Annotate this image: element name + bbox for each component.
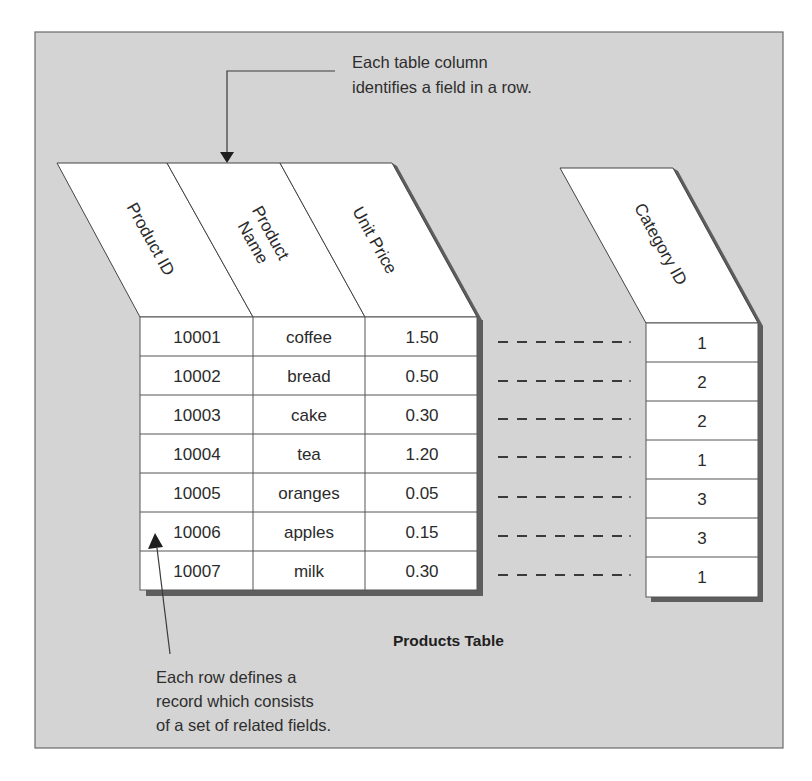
cell-category-id: 1	[697, 451, 706, 470]
cell-product-id: 10002	[173, 367, 220, 386]
cell-category-id: 1	[697, 334, 706, 353]
cell-unit-price: 0.05	[405, 484, 438, 503]
products-table-diagram: Each table column identifies a field in …	[0, 0, 812, 781]
cell-product-id: 10004	[173, 445, 220, 464]
column-note-line-2: identifies a field in a row.	[352, 78, 532, 96]
column-note-line-1: Each table column	[352, 53, 488, 71]
cell-category-id: 2	[697, 373, 706, 392]
cell-product-id: 10006	[173, 523, 220, 542]
cell-category-id: 3	[697, 529, 706, 548]
cell-unit-price: 1.20	[405, 445, 438, 464]
cell-unit-price: 0.30	[405, 562, 438, 581]
cell-product-id: 10005	[173, 484, 220, 503]
cell-product-name: milk	[294, 562, 325, 581]
cell-product-name: tea	[297, 445, 321, 464]
cell-unit-price: 1.50	[405, 328, 438, 347]
cell-product-id: 10003	[173, 406, 220, 425]
cell-product-id: 10007	[173, 562, 220, 581]
cell-product-id: 10001	[173, 328, 220, 347]
cell-unit-price: 0.15	[405, 523, 438, 542]
row-note-line-2: record which consists	[156, 692, 314, 710]
cell-category-id: 2	[697, 412, 706, 431]
cell-category-id: 1	[697, 568, 706, 587]
cell-product-name: bread	[287, 367, 330, 386]
cell-product-name: coffee	[286, 328, 332, 347]
cell-product-name: cake	[291, 406, 327, 425]
cell-unit-price: 0.50	[405, 367, 438, 386]
cell-category-id: 3	[697, 490, 706, 509]
cell-product-name: oranges	[278, 484, 339, 503]
row-note-line-3: of a set of related fields.	[156, 716, 331, 734]
row-note-line-1: Each row defines a	[156, 668, 297, 686]
cell-unit-price: 0.30	[405, 406, 438, 425]
table-body: 10001 coffee 1.50 10002 bread 0.50 10003…	[140, 317, 477, 590]
cell-product-name: apples	[284, 523, 334, 542]
table-title: Products Table	[393, 632, 504, 649]
